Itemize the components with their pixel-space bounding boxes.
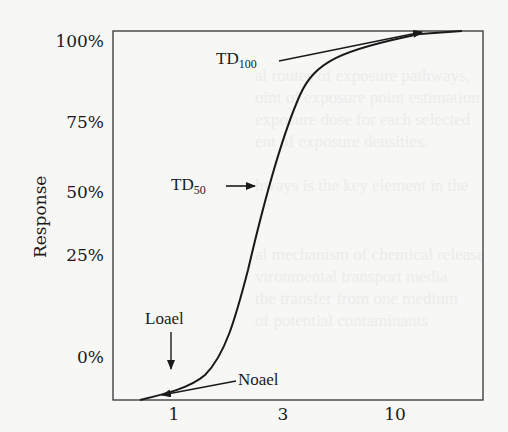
td100-subscript: 100 — [239, 57, 257, 71]
noael-leader — [162, 381, 236, 395]
y-tick-0: 0% — [44, 347, 104, 367]
x-tick-3: 3 — [263, 404, 303, 424]
y-tick-25: 25% — [44, 245, 104, 265]
td100-label-text: TD — [216, 49, 239, 68]
td100-label: TD100 — [216, 49, 257, 72]
td50-label: TD50 — [171, 175, 206, 198]
y-tick-50: 50% — [44, 182, 104, 202]
y-tick-100: 100% — [44, 31, 104, 51]
y-tick-75: 75% — [44, 112, 104, 132]
x-tick-10: 10 — [375, 404, 415, 424]
td100-leader — [279, 32, 422, 61]
plot-frame — [113, 31, 483, 400]
dose-response-curve — [140, 31, 462, 400]
noael-label: Noael — [238, 370, 279, 390]
loael-label: Loael — [145, 309, 184, 329]
x-tick-1: 1 — [154, 404, 194, 424]
td50-label-text: TD — [171, 175, 194, 194]
td50-subscript: 50 — [194, 183, 206, 197]
